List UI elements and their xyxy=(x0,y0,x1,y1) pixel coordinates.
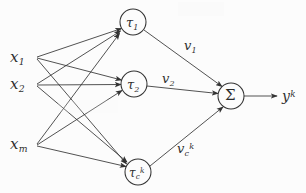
weight-label-vck-base: v xyxy=(177,141,184,156)
hidden-node-label-tauck-base: τ xyxy=(129,166,136,180)
edge-xm-tau2 xyxy=(37,91,122,146)
hidden-node-label-tau2-sub: 2 xyxy=(134,85,139,94)
edge-tau2-sigma xyxy=(147,86,218,94)
input-label-x2-base: x xyxy=(10,75,18,93)
network-graph-svg xyxy=(0,0,306,193)
edge-xm-tau1 xyxy=(37,34,120,145)
weight-label-vck: vck xyxy=(177,142,194,155)
input-label-x2: x2 xyxy=(10,77,24,92)
output-node-label-sigma-text: Σ xyxy=(225,86,236,104)
edge-x2-tau2 xyxy=(37,85,121,86)
edge-tau1-sigma xyxy=(144,30,222,87)
weight-label-v1-base: v xyxy=(184,38,191,53)
weight-label-v2-base: v xyxy=(162,71,169,86)
input-label-xm-sub: m xyxy=(19,143,28,154)
input-label-xm: xm xyxy=(10,137,27,152)
edge-x1-tau1 xyxy=(37,29,122,58)
output-label-yk: yk xyxy=(282,89,295,103)
edge-x1-tau2 xyxy=(37,58,122,80)
hidden-node-label-tau1-sub: 1 xyxy=(133,23,138,32)
weight-label-vck-sup: k xyxy=(189,142,194,151)
hidden-node-label-tau1: τ1 xyxy=(126,16,138,29)
edge-xm-tauck xyxy=(37,146,126,167)
weight-label-v2: v2 xyxy=(162,72,174,85)
weight-label-v1-sub: 1 xyxy=(192,46,197,55)
weight-label-v1: v1 xyxy=(184,39,196,52)
input-label-x1-sub: 1 xyxy=(19,56,25,67)
hidden-node-label-tauck-sup: k xyxy=(140,166,145,175)
output-label-yk-base: y xyxy=(282,88,290,104)
input-label-x2-sub: 2 xyxy=(19,83,25,94)
edge-x1-tauck xyxy=(37,59,127,164)
output-node-label-sigma: Σ xyxy=(225,88,236,103)
edge-x2-tauck xyxy=(37,86,127,162)
output-label-yk-sup: k xyxy=(290,89,295,99)
edges-input-to-hidden xyxy=(37,29,127,167)
input-label-x1-base: x xyxy=(10,48,18,66)
hidden-node-label-tauck: τck xyxy=(129,167,144,179)
network-diagram: x1 x2 xm τ1 τ2 τck Σ v1 v2 vck yk xyxy=(0,0,306,193)
input-label-xm-base: x xyxy=(10,135,18,153)
hidden-node-label-tau2: τ2 xyxy=(127,78,139,91)
weight-label-v2-sub: 2 xyxy=(170,79,175,88)
input-label-x1: x1 xyxy=(10,50,24,65)
